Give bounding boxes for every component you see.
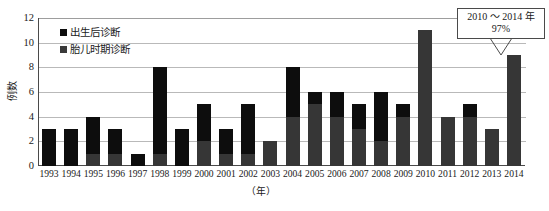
legend-item-postnatal[interactable]: 出生后诊断	[60, 24, 130, 41]
x-tick-2001: 2001	[215, 168, 237, 180]
bar-segment-fetal-2005	[308, 104, 322, 166]
bar-slot-2001[interactable]	[215, 18, 237, 166]
bar-slot-1993[interactable]	[38, 18, 60, 166]
bar-segment-postnatal-2000	[197, 104, 211, 141]
x-tick-2012: 2012	[459, 168, 481, 180]
x-tick-2011: 2011	[436, 168, 458, 180]
x-tick-2003: 2003	[259, 168, 281, 180]
bar-segment-postnatal-1998	[153, 67, 167, 153]
legend-item-fetal[interactable]: 胎儿时期诊断	[60, 41, 130, 58]
bar-segment-postnatal-1997	[131, 154, 145, 166]
legend-swatch-fetal-icon	[60, 46, 67, 53]
legend-label-fetal: 胎儿时期诊断	[70, 44, 130, 55]
bar-1997[interactable]	[131, 154, 145, 166]
bar-segment-fetal-2004	[286, 117, 300, 166]
bar-segment-fetal-2007	[352, 129, 366, 166]
bar-2001[interactable]	[219, 129, 233, 166]
bar-2002[interactable]	[241, 104, 255, 166]
bar-2008[interactable]	[374, 92, 388, 166]
bar-slot-2011[interactable]	[436, 18, 458, 166]
x-tick-2006: 2006	[326, 168, 348, 180]
bar-slot-2007[interactable]	[348, 18, 370, 166]
legend-label-postnatal: 出生后诊断	[70, 27, 120, 38]
bar-segment-postnatal-2005	[308, 92, 322, 104]
bar-segment-fetal-2002	[241, 154, 255, 166]
bar-slot-2002[interactable]	[237, 18, 259, 166]
bar-slot-2003[interactable]	[259, 18, 281, 166]
x-tick-1999: 1999	[171, 168, 193, 180]
bar-slot-2004[interactable]	[282, 18, 304, 166]
annotation-line-2: 97%	[460, 23, 542, 35]
bar-segment-postnatal-2008	[374, 92, 388, 141]
bar-2003[interactable]	[263, 141, 277, 166]
x-tick-2008: 2008	[370, 168, 392, 180]
bar-segment-fetal-2001	[219, 154, 233, 166]
chart-legend: 出生后诊断胎儿时期诊断	[60, 24, 130, 58]
bar-2009[interactable]	[396, 104, 410, 166]
bar-1993[interactable]	[42, 129, 56, 166]
bar-2000[interactable]	[197, 104, 211, 166]
bar-segment-postnatal-2012	[463, 104, 477, 116]
bar-2005[interactable]	[308, 92, 322, 166]
bar-1995[interactable]	[86, 117, 100, 166]
annotation-pointer	[457, 39, 545, 57]
x-axis-tick-labels: 1993199419951996199719981999200020012002…	[38, 168, 525, 182]
chart-figure: 121086420 例数 199319941995199619971998199…	[0, 0, 549, 211]
bar-segment-postnatal-1999	[175, 129, 189, 166]
bar-slot-1999[interactable]	[171, 18, 193, 166]
bar-2007[interactable]	[352, 104, 366, 166]
bar-slot-2010[interactable]	[414, 18, 436, 166]
y-tick-12: 12	[4, 13, 34, 23]
annotation-callout: 2010 ～ 2014 年 97%	[457, 8, 545, 57]
y-tick-2: 2	[4, 136, 34, 146]
x-axis-title: （年）	[0, 184, 549, 198]
bar-2004[interactable]	[286, 67, 300, 166]
bar-segment-postnatal-2007	[352, 104, 366, 129]
bar-slot-2009[interactable]	[392, 18, 414, 166]
y-axis-title: 例数	[4, 71, 19, 111]
bar-segment-postnatal-1996	[108, 129, 122, 154]
bar-segment-fetal-1995	[86, 154, 100, 166]
bar-slot-2008[interactable]	[370, 18, 392, 166]
x-tick-1997: 1997	[127, 168, 149, 180]
y-tick-0: 0	[4, 161, 34, 171]
bar-segment-fetal-2008	[374, 141, 388, 166]
bar-2012[interactable]	[463, 104, 477, 166]
bar-segment-postnatal-2004	[286, 67, 300, 116]
legend-swatch-postnatal-icon	[60, 29, 67, 36]
bar-1996[interactable]	[108, 129, 122, 166]
bar-segment-postnatal-2006	[330, 92, 344, 117]
bar-segment-fetal-2000	[197, 141, 211, 166]
bar-segment-fetal-2003	[263, 141, 277, 166]
x-tick-2010: 2010	[414, 168, 436, 180]
x-tick-2007: 2007	[348, 168, 370, 180]
y-tick-10: 10	[4, 38, 34, 48]
x-tick-1995: 1995	[82, 168, 104, 180]
annotation-callout-box: 2010 ～ 2014 年 97%	[457, 8, 545, 39]
bar-segment-fetal-2006	[330, 117, 344, 166]
bar-1994[interactable]	[64, 129, 78, 166]
bar-segment-fetal-1998	[153, 154, 167, 166]
bar-segment-postnatal-2009	[396, 104, 410, 116]
bar-segment-fetal-2013	[485, 129, 499, 166]
bar-segment-postnatal-2001	[219, 129, 233, 154]
bar-slot-1998[interactable]	[149, 18, 171, 166]
bar-2011[interactable]	[441, 117, 455, 166]
bar-2014[interactable]	[507, 55, 521, 166]
annotation-line-1: 2010 ～ 2014 年	[460, 11, 542, 23]
bar-slot-2006[interactable]	[326, 18, 348, 166]
x-axis-title-text: （年）	[246, 184, 276, 198]
bar-segment-postnatal-1994	[64, 129, 78, 166]
x-tick-1998: 1998	[149, 168, 171, 180]
bar-2013[interactable]	[485, 129, 499, 166]
bar-segment-postnatal-2002	[241, 104, 255, 153]
x-tick-2000: 2000	[193, 168, 215, 180]
bar-1999[interactable]	[175, 129, 189, 166]
bar-slot-2005[interactable]	[304, 18, 326, 166]
x-tick-2013: 2013	[481, 168, 503, 180]
bar-2010[interactable]	[418, 30, 432, 166]
bar-slot-2000[interactable]	[193, 18, 215, 166]
x-tick-2004: 2004	[282, 168, 304, 180]
bar-1998[interactable]	[153, 67, 167, 166]
bar-2006[interactable]	[330, 92, 344, 166]
